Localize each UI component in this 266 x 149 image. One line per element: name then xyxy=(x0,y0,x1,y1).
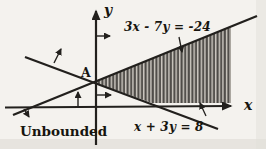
graph-canvas: y x 3x - 7y = -24 x + 3y = 8 A Unbounded xyxy=(0,0,266,149)
x-axis-label: x xyxy=(243,97,253,113)
scan-shadow-bottom xyxy=(0,139,266,149)
scan-shadow-right xyxy=(256,0,266,149)
line1-equation-label: 3x - 7y = -24 xyxy=(124,20,211,34)
region-direction-arrow-icon xyxy=(54,49,61,63)
line2-equation-label: x + 3y = 8 xyxy=(133,120,204,134)
line2-leader-arrow-icon xyxy=(200,103,206,116)
feasible-region-hatch xyxy=(93,27,231,103)
x-axis xyxy=(5,106,231,108)
point-a-label: A xyxy=(80,65,91,80)
y-axis-label: y xyxy=(103,2,113,18)
inequality-graph-figure: y x 3x - 7y = -24 x + 3y = 8 A Unbounded xyxy=(0,0,266,149)
unbounded-label: Unbounded xyxy=(20,123,108,139)
